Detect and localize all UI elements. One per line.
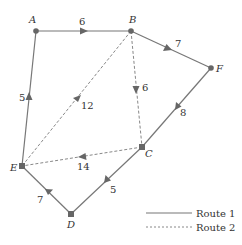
weight-F-C: 8 xyxy=(180,107,186,118)
node-label-F: F xyxy=(215,63,224,74)
weight-B-F: 7 xyxy=(175,38,181,49)
arrow-up-left-icon xyxy=(45,189,53,195)
weight-B-E: 12 xyxy=(81,100,94,111)
legend-route-2-label: Route 2 xyxy=(196,222,235,233)
route-2-edges xyxy=(22,31,142,166)
weight-C-E: 14 xyxy=(77,161,90,172)
nodes xyxy=(19,28,214,217)
route-1-edges xyxy=(22,31,211,214)
weight-D-E: 7 xyxy=(37,194,43,205)
route-diagram: A B F C E D 5 6 7 8 5 7 12 6 14 Route 1 … xyxy=(0,0,242,245)
node-label-E: E xyxy=(9,162,18,173)
node-E xyxy=(19,163,25,169)
node-label-A: A xyxy=(28,14,36,25)
arrowheads xyxy=(26,28,182,196)
arrow-down-icon xyxy=(133,86,140,94)
arrow-down-left-icon xyxy=(104,175,111,183)
legend-route-1-label: Route 1 xyxy=(196,208,235,219)
arrow-left-icon xyxy=(78,153,87,160)
weight-B-C: 6 xyxy=(142,82,148,93)
arrow-up-icon xyxy=(26,92,33,100)
node-B xyxy=(128,28,134,34)
weight-E-A: 5 xyxy=(19,92,25,103)
node-label-B: B xyxy=(128,14,136,25)
weight-A-B: 6 xyxy=(79,16,85,27)
node-label-C: C xyxy=(145,148,153,159)
node-A xyxy=(33,28,39,34)
arrow-down-right-icon xyxy=(163,44,172,51)
node-label-D: D xyxy=(66,219,75,230)
node-D xyxy=(68,211,74,217)
arrow-right-icon xyxy=(80,28,88,35)
legend: Route 1 Route 2 xyxy=(146,208,235,233)
node-F xyxy=(208,65,214,71)
weight-C-D: 5 xyxy=(110,184,116,195)
